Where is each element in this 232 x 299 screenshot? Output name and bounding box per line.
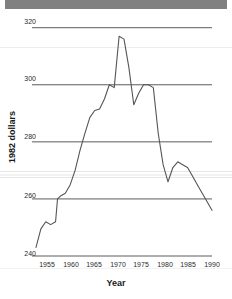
y-axis-title: 1982 dollars bbox=[7, 87, 17, 187]
x-tick-label: 1985 bbox=[175, 261, 201, 268]
chart-figure: 320 300 280 260 240 1955 1960 1965 1970 … bbox=[0, 0, 232, 299]
x-tick-label: 1955 bbox=[34, 261, 60, 268]
y-tick-label: 300 bbox=[14, 75, 36, 82]
x-tick-label: 1965 bbox=[81, 261, 107, 268]
gridlines bbox=[32, 28, 212, 256]
x-tick-label: 1975 bbox=[128, 261, 154, 268]
x-tick-label: 1990 bbox=[199, 261, 225, 268]
y-tick-label: 260 bbox=[14, 192, 36, 199]
x-axis-title: Year bbox=[0, 278, 232, 288]
y-tick-label: 240 bbox=[14, 250, 36, 257]
y-tick-label: 280 bbox=[14, 133, 36, 140]
y-tick-label: 320 bbox=[14, 18, 36, 25]
